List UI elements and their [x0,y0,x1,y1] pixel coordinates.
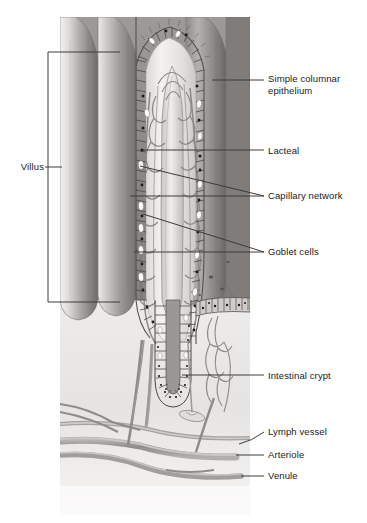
villus-histology-figure: Villus Simple columnar epithelium Lactea… [0,0,367,523]
villus-1 [60,17,98,320]
crypt-lumen [166,300,180,394]
label-lymph-vessel: Lymph vessel [268,426,327,438]
label-villus: Villus [4,161,44,173]
label-simple-columnar-epithelium-line2: epithelium [268,85,312,97]
label-goblet-cells: Goblet cells [268,246,319,258]
villus-5-partial [226,17,250,300]
label-arteriole: Arteriole [268,449,304,461]
lacteal [161,66,183,320]
base-fade [60,486,250,515]
illustration-body [60,17,250,515]
label-lacteal: Lacteal [268,145,299,157]
label-venule: Venule [268,470,298,482]
label-simple-columnar-epithelium-line1: Simple columnar [268,73,340,85]
villus-2 [98,17,136,316]
label-capillary-network: Capillary network [268,190,343,202]
label-intestinal-crypt: Intestinal crypt [268,370,331,382]
